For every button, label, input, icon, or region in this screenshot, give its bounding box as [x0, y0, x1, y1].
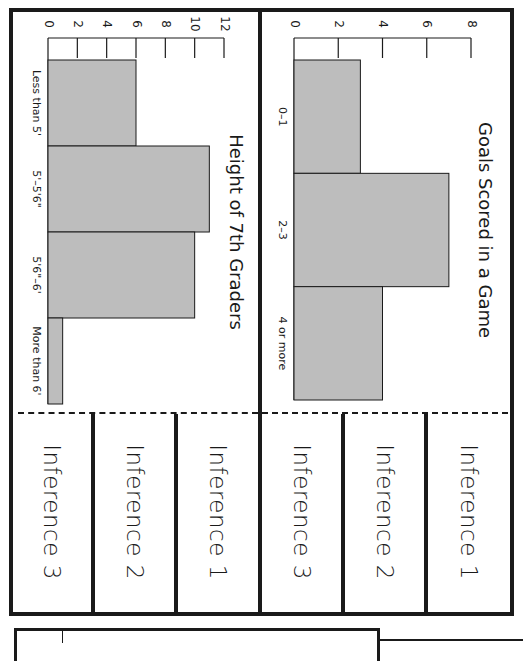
inference-label: Inference 2	[122, 444, 148, 580]
tick-label: 6	[420, 20, 434, 28]
tick-label: 0	[288, 20, 302, 28]
inference-box-left-1[interactable]: Inference 1	[178, 414, 258, 610]
next-section-line	[377, 639, 523, 641]
chart-title: Height of 7th Graders	[226, 134, 247, 330]
inference-label: Inference 3	[289, 444, 315, 580]
inference-box-right-3[interactable]: Inference 3	[262, 414, 341, 610]
category-label: 5'6"–6'	[30, 256, 43, 294]
histogram-bar	[48, 60, 136, 146]
inference-label: Inference 1	[456, 444, 482, 580]
tick-label: 10	[188, 16, 202, 31]
histogram-bar	[48, 146, 209, 232]
tick-label: 2	[71, 20, 85, 28]
histogram-bar	[294, 60, 360, 173]
tick-label: 6	[130, 20, 144, 28]
tick-label: 2	[332, 20, 346, 28]
tick-label: 4	[376, 20, 390, 28]
tick-label: 0	[42, 20, 56, 28]
inference-box-right-1[interactable]: Inference 1	[428, 414, 510, 610]
histogram-bar	[294, 173, 449, 286]
histogram-goals: 024680–12–34 or moreGoals Scored in a Ga…	[262, 12, 507, 412]
inference-label: Inference 2	[372, 444, 398, 580]
tick-label: 4	[100, 20, 114, 28]
tick-label: 8	[159, 20, 173, 28]
inference-box-left-3[interactable]: Inference 3	[13, 414, 91, 610]
category-label: Less than 5'	[30, 70, 43, 136]
category-label: 0–1	[276, 107, 289, 127]
inference-box-left-2[interactable]: Inference 2	[95, 414, 174, 610]
chart-title: Goals Scored in a Game	[475, 122, 496, 338]
next-section-box	[14, 628, 380, 661]
chart-height-of-7th-graders: 024681012Less than 5'5'–5'6"5'6"–6'More …	[13, 12, 258, 412]
category-label: More than 6'	[30, 326, 43, 395]
inference-label: Inference 1	[205, 444, 231, 580]
histogram-height: 024681012Less than 5'5'–5'6"5'6"–6'More …	[13, 12, 258, 412]
inference-box-right-2[interactable]: Inference 2	[345, 414, 424, 610]
chart-goals-scored: 024680–12–34 or moreGoals Scored in a Ga…	[262, 12, 507, 412]
category-label: 5'–5'6"	[30, 170, 43, 208]
histogram-bar	[294, 287, 383, 400]
inference-label: Inference 3	[39, 444, 65, 580]
category-label: 2–3	[276, 220, 289, 240]
tick-label: 12	[218, 16, 232, 31]
histogram-bar	[48, 318, 63, 404]
next-section-tick	[62, 631, 63, 643]
category-label: 4 or more	[276, 316, 289, 370]
histogram-bar	[48, 232, 195, 318]
tick-label: 8	[465, 20, 479, 28]
